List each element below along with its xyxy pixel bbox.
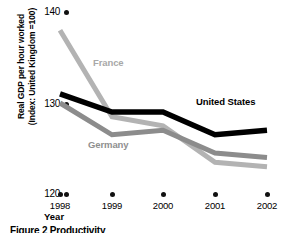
productivity-line-chart: Real GDP per hour worked (Index: United … (0, 0, 293, 233)
series-label-united-states: United States (196, 96, 255, 107)
series-label-france: France (93, 57, 124, 68)
figure-caption: Figure 2 Productivity (10, 225, 105, 233)
chart-plot-area (0, 0, 293, 233)
series-label-germany: Germany (88, 139, 129, 150)
